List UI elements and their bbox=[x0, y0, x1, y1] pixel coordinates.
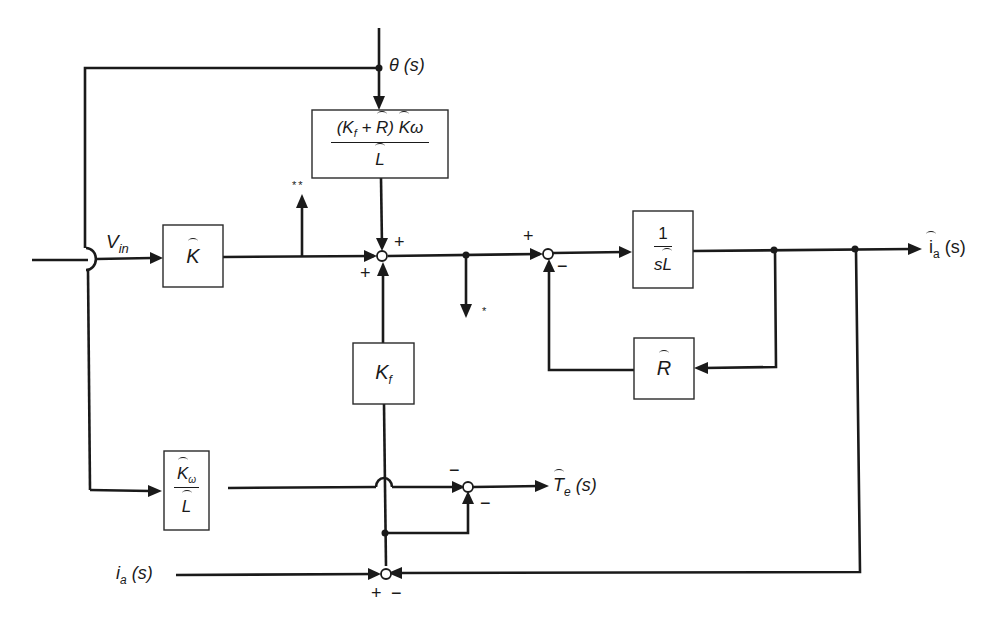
arrow-output-te-hat bbox=[535, 480, 549, 492]
vin-input-wire-b bbox=[96, 258, 152, 259]
theta-junction bbox=[376, 65, 383, 72]
te-hat-arg: (s) bbox=[571, 475, 597, 495]
ff-num-omega: ω bbox=[410, 118, 423, 137]
ia-hat-arg: (s) bbox=[940, 237, 966, 257]
ia-input-wire bbox=[176, 574, 376, 575]
summing-junction-4 bbox=[381, 569, 391, 579]
summing-junction-1 bbox=[377, 251, 387, 261]
ia-hat-output-label: ia (s) bbox=[929, 238, 966, 260]
kf-block: Kf bbox=[353, 343, 414, 404]
te-branch-wire bbox=[385, 502, 468, 533]
isl-to-output-wire bbox=[693, 249, 912, 251]
sum2-to-isl-wire bbox=[553, 252, 625, 253]
r-feedback-wire-in bbox=[703, 250, 776, 368]
vin-label: Vin bbox=[106, 232, 129, 255]
ff-num-open: (K bbox=[337, 118, 354, 137]
summing-junction-3 bbox=[463, 482, 473, 492]
arrow-double-star bbox=[296, 194, 308, 208]
sum3-to-te-wire bbox=[473, 486, 540, 487]
inv-sl-l-hat: L bbox=[663, 255, 672, 275]
arrow-into-sum2-bottom bbox=[543, 259, 555, 272]
arrow-star bbox=[460, 304, 472, 318]
k-hat-block: K bbox=[163, 225, 223, 287]
arrow-into-r-block bbox=[694, 362, 708, 374]
kw-block: Kω L bbox=[164, 451, 209, 530]
sum1-bottom-sign: + bbox=[360, 264, 371, 282]
kw-k-hat: K bbox=[177, 464, 188, 484]
te-hat-main: T bbox=[553, 476, 564, 494]
kw-denominator: L bbox=[182, 494, 191, 517]
arrow-into-sum1-bottom bbox=[377, 262, 389, 276]
kw-to-sum3-wire-a bbox=[228, 487, 376, 488]
ia-hat-main: i bbox=[929, 238, 933, 256]
arrow-into-sum4-left bbox=[368, 568, 381, 580]
r-feedback-wire-out bbox=[549, 266, 634, 370]
feedforward-block: (Kf + R) Kω L bbox=[312, 110, 448, 178]
arrow-into-sum2-left bbox=[530, 248, 543, 260]
kf-sub: f bbox=[389, 373, 392, 387]
kw-omega-sub: ω bbox=[188, 474, 196, 485]
ff-num-close: ) bbox=[388, 118, 394, 137]
r-hat-block: R bbox=[634, 338, 694, 399]
k-to-sum1-wire bbox=[223, 256, 374, 257]
ff-den-l-hat: L bbox=[375, 150, 384, 170]
inv-sl-block: 1 sL bbox=[633, 211, 693, 288]
k-hat-label: K bbox=[186, 245, 199, 268]
feedforward-numerator: (Kf + R) Kω bbox=[331, 118, 430, 143]
arrow-into-sum1-left bbox=[364, 250, 377, 262]
te-hat-output-label: Te (s) bbox=[553, 476, 597, 498]
kw-l-hat: L bbox=[182, 497, 191, 517]
sum1-top-sign: + bbox=[394, 233, 405, 251]
sum4-right-sign: − bbox=[391, 584, 402, 602]
diagram-wires bbox=[0, 0, 1000, 622]
theta-to-kw-vertical bbox=[88, 270, 90, 490]
kw-numerator: Kω bbox=[174, 464, 199, 488]
summing-junction-2 bbox=[543, 249, 553, 259]
arrow-into-sum1-top bbox=[376, 238, 388, 251]
ia-sub: a bbox=[120, 573, 127, 587]
feedforward-to-sum1 bbox=[381, 178, 382, 246]
double-star-marker: ** bbox=[292, 180, 305, 191]
sum2-bottom-sign: − bbox=[557, 257, 568, 275]
kf-main: K bbox=[375, 361, 388, 383]
ia-input-label: ia (s) bbox=[116, 564, 153, 586]
inv-sl-s: s bbox=[654, 255, 663, 274]
ff-num-k-hat: K bbox=[399, 118, 410, 138]
kf-label: Kf bbox=[375, 361, 392, 387]
feedforward-denominator: L bbox=[375, 147, 384, 170]
arrow-output-ia-hat bbox=[908, 243, 922, 255]
inv-sl-denominator: sL bbox=[654, 252, 672, 275]
single-star-marker: * bbox=[482, 306, 486, 317]
sum3-top-sign: − bbox=[449, 461, 460, 479]
arrow-to-kw-block bbox=[148, 485, 162, 497]
vin-main: V bbox=[106, 231, 119, 252]
arrow-to-feedforward bbox=[373, 96, 385, 110]
sum3-bottom-sign: − bbox=[480, 494, 491, 512]
ia-arg: (s) bbox=[127, 563, 153, 583]
ff-num-plus: + bbox=[357, 118, 376, 137]
r-hat-label: R bbox=[657, 357, 671, 380]
arrow-to-k-block bbox=[150, 252, 163, 264]
arrow-into-isl bbox=[619, 246, 632, 258]
ff-num-r-hat: R bbox=[376, 118, 388, 138]
theta-to-kw-horizontal bbox=[90, 490, 150, 491]
ia-hat-sub: a bbox=[933, 247, 940, 261]
vin-sub: in bbox=[119, 241, 129, 256]
sum2-left-sign: + bbox=[523, 227, 534, 245]
inv-sl-numerator: 1 bbox=[654, 224, 671, 247]
sum4-left-sign: + bbox=[371, 584, 382, 602]
arrow-into-sum3-bottom bbox=[462, 491, 474, 504]
theta-label: θ (s) bbox=[389, 56, 425, 74]
te-hat-sub: e bbox=[564, 485, 571, 499]
sum4-to-kf-wire bbox=[384, 404, 386, 566]
